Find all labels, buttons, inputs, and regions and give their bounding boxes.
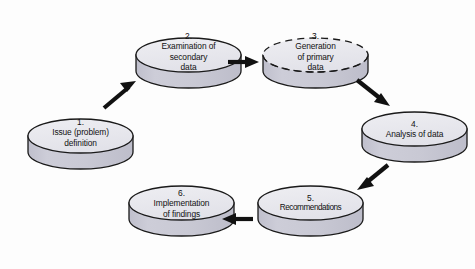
node-2-cylinder [136, 38, 241, 88]
node-1-cylinder [28, 119, 133, 169]
node-6-cylinder [129, 186, 234, 236]
arrow-4-to-5 [357, 165, 388, 190]
arrow-1-to-2 [104, 81, 136, 108]
arrow-3-to-4 [357, 80, 390, 106]
node-5-cylinder [258, 186, 363, 236]
node-4-cylinder [362, 112, 467, 162]
diagram-canvas [0, 0, 475, 269]
node-3-cylinder [263, 38, 368, 88]
process-cycle-diagram: 1. Issue (problem) definition 2. Examina… [0, 0, 475, 269]
